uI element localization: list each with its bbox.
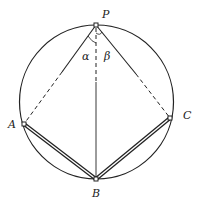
label-b: B <box>91 187 100 200</box>
label-p: P <box>101 8 110 21</box>
chord-pa-solid <box>62 25 96 72</box>
point-c-marker <box>168 116 172 120</box>
point-a-marker <box>22 122 26 126</box>
chord-pc-dashed <box>136 74 170 118</box>
point-b-marker <box>94 177 98 181</box>
label-alpha: α <box>82 50 90 63</box>
geometry-diagram: P α β A C B <box>0 0 199 206</box>
beta-angle-arc <box>96 32 102 34</box>
point-p-marker <box>94 23 98 27</box>
label-c: C <box>183 109 192 122</box>
circle <box>20 25 174 179</box>
alpha-angle-arc <box>88 36 96 43</box>
chord-pa-dashed <box>24 72 62 124</box>
rod-ab-inner <box>24 124 96 179</box>
label-beta: β <box>103 50 110 63</box>
label-a: A <box>7 118 16 131</box>
